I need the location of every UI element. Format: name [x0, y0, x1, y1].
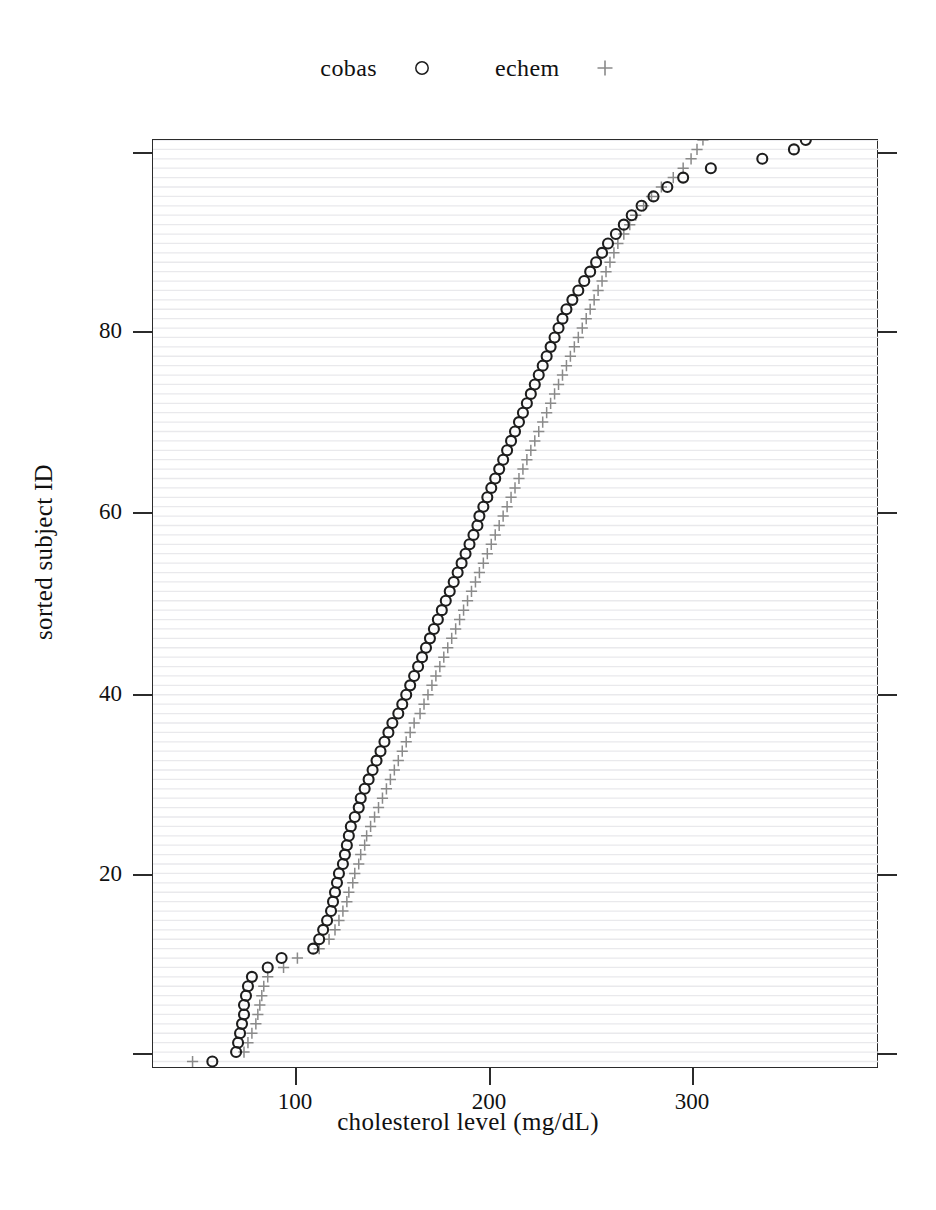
- ytick-mark-right-0: [878, 152, 897, 154]
- ytick-mark-right-5: [878, 1053, 897, 1055]
- legend-label-cobas: cobas: [320, 55, 377, 82]
- ytick-mark-20: [133, 874, 152, 876]
- ytick-label-80: 80: [52, 318, 122, 344]
- xtick-mark-0: [295, 1068, 297, 1085]
- ytick-mark-60: [133, 512, 152, 514]
- legend: cobas echem: [0, 48, 936, 88]
- ytick-mark-right-1: [878, 331, 897, 333]
- ytick-label-20: 20: [52, 861, 122, 887]
- xtick-mark-2: [692, 1068, 694, 1085]
- xtick-mark-1: [489, 1068, 491, 1085]
- plus-marker-icon: [594, 57, 616, 79]
- series-cobas-points: [207, 140, 818, 1066]
- legend-entry-echem: echem: [495, 55, 616, 82]
- ytick-label-60: 60: [52, 499, 122, 525]
- y-axis-title: sorted subject ID: [30, 422, 58, 682]
- ytick-mark-80: [133, 331, 152, 333]
- ytick-mark-bottom-left: [133, 1053, 152, 1055]
- ytick-mark-right-2: [878, 512, 897, 514]
- legend-label-echem: echem: [495, 55, 560, 82]
- circle-marker-icon: [411, 57, 433, 79]
- gridlines: [153, 140, 879, 1061]
- plot-area: [152, 139, 878, 1068]
- ytick-mark-40: [133, 694, 152, 696]
- ytick-mark-right-3: [878, 694, 897, 696]
- ytick-mark-top-left: [133, 152, 152, 154]
- ytick-label-40: 40: [52, 681, 122, 707]
- x-axis-title: cholesterol level (mg/dL): [0, 1108, 936, 1136]
- legend-entry-cobas: cobas: [320, 55, 433, 82]
- ytick-mark-right-4: [878, 874, 897, 876]
- data-layer: [153, 140, 879, 1069]
- scatter-plot-figure: cobas echem 100 200 300: [0, 0, 936, 1210]
